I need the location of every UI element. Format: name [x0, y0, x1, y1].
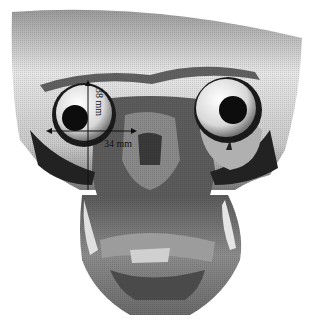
horizontal-measurement-label: 34 mm [104, 138, 132, 149]
skull-figure: 38 mm 34 mm [0, 0, 309, 320]
skull-render: 38 mm 34 mm [0, 0, 309, 320]
mandible [80, 195, 241, 315]
vertical-measurement-label: 38 mm [94, 88, 105, 116]
